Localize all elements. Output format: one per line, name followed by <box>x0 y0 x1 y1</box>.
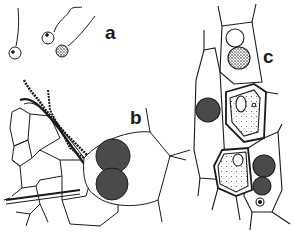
panel-label-b: b <box>130 108 142 127</box>
panel-label-c: c <box>263 47 274 66</box>
panel-a-zoospores <box>9 7 95 59</box>
panel-c-cells <box>194 4 290 230</box>
botanical-figure: a b c <box>0 0 299 235</box>
panel-b-tissue <box>4 80 190 226</box>
illustration-canvas <box>0 0 299 235</box>
panel-label-a: a <box>105 23 116 42</box>
